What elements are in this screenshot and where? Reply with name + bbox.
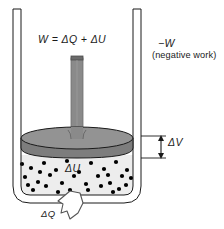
piston-rod-cap — [71, 56, 83, 60]
thermodynamics-piston-diagram: W = ΔQ + ΔU −W (negative work) ΔV ΔU ΔQ — [0, 0, 224, 229]
negative-work-note: (negative work) — [152, 50, 216, 60]
volume-change-label: ΔV — [168, 136, 183, 148]
heat-label: ΔQ — [41, 208, 56, 219]
diagram-canvas — [0, 0, 224, 229]
piston-rod-joint — [71, 127, 83, 139]
internal-energy-label: ΔU — [65, 162, 80, 174]
negative-work-label: −W — [158, 37, 175, 49]
energy-equation-label: W = ΔQ + ΔU — [38, 33, 106, 45]
